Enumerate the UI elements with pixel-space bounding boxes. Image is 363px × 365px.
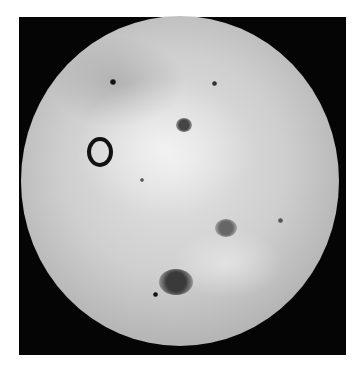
lower-dark-spot [159,269,193,295]
io-moon [21,16,339,346]
mid-right-spot [215,219,237,237]
small-dot-1 [110,79,116,85]
small-dot-3 [153,292,158,297]
upper-dark-patch [176,118,192,132]
small-dot-2 [212,81,217,86]
small-dot-5 [278,218,283,223]
horseshoe-volcano [87,137,113,167]
small-dot-4 [140,178,144,182]
